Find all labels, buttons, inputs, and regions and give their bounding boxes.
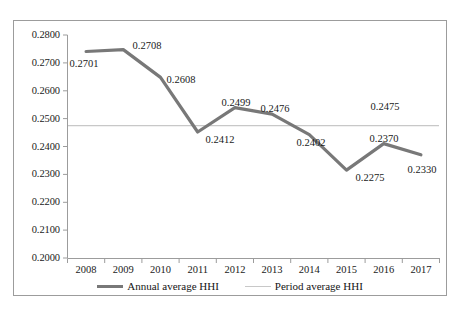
chart-figure: 0.2800 0.2700 0.2600 0.2500 0.2400 0.230…	[0, 0, 461, 313]
x-axis-ticks	[68, 259, 440, 264]
y-tick-label: 0.2300	[14, 168, 60, 179]
x-tick-label: 2017	[401, 264, 441, 275]
x-tick-label: 2013	[252, 264, 292, 275]
x-tick-label: 2009	[103, 264, 143, 275]
x-tick-label: 2012	[215, 264, 255, 275]
legend-entry-period: Period average HHI	[245, 280, 363, 292]
data-label-2011: 0.2412	[198, 134, 242, 145]
data-label-2016: 0.2370	[362, 133, 406, 144]
data-label-2014: 0.2402	[289, 137, 333, 148]
y-tick-label: 0.2500	[14, 113, 60, 124]
data-label-2009: 0.2708	[125, 40, 169, 51]
legend-label-period: Period average HHI	[275, 280, 363, 292]
x-tick-label: 2011	[178, 264, 218, 275]
y-tick-label: 0.2400	[14, 141, 60, 152]
data-label-2008: 0.2701	[62, 58, 106, 69]
legend-swatch-annual-icon	[97, 285, 123, 288]
y-tick-label: 0.2000	[14, 252, 60, 263]
data-label-period-average: 0.2475	[363, 101, 407, 112]
data-label-2017: 0.2330	[400, 164, 444, 175]
y-tick-label: 0.2800	[14, 29, 60, 40]
data-label-2010: 0.2608	[159, 74, 203, 85]
legend-entry-annual: Annual average HHI	[97, 280, 219, 292]
chart-legend: Annual average HHI Period average HHI	[13, 276, 447, 296]
y-tick-label: 0.2700	[14, 57, 60, 68]
legend-label-annual: Annual average HHI	[127, 280, 219, 292]
data-label-2013: 0.2476	[253, 103, 297, 114]
y-tick-label: 0.2600	[14, 85, 60, 96]
y-tick-label: 0.2100	[14, 224, 60, 235]
data-label-2015: 0.2275	[348, 172, 392, 183]
y-tick-label: 0.2200	[14, 196, 60, 207]
x-tick-label: 2015	[327, 264, 367, 275]
x-tick-label: 2016	[364, 264, 404, 275]
x-tick-label: 2010	[141, 264, 181, 275]
x-tick-label: 2014	[289, 264, 329, 275]
legend-swatch-period-icon	[245, 286, 271, 287]
data-label-2012: 0.2499	[214, 97, 258, 108]
x-tick-label: 2008	[66, 264, 106, 275]
